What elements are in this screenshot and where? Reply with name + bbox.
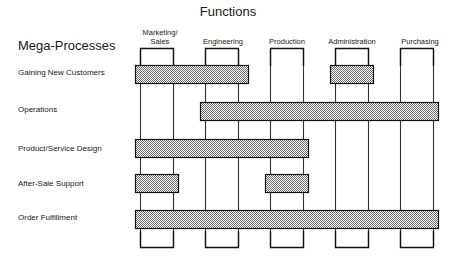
column-footer-box-engineering bbox=[206, 231, 239, 248]
matrix-graphics bbox=[0, 0, 456, 256]
process-bar-segment bbox=[136, 140, 309, 158]
column-footer-boxes bbox=[141, 231, 434, 248]
column-footer-box-purchasing bbox=[401, 231, 434, 248]
process-bar-row-gaining-new-customers bbox=[136, 66, 374, 84]
process-bar-segment bbox=[201, 103, 439, 121]
process-bar-segment bbox=[136, 175, 179, 193]
column-header-box-administration bbox=[336, 49, 369, 67]
column-header-boxes bbox=[141, 49, 434, 67]
column-header-box-production bbox=[271, 49, 304, 67]
column-footer-box-marketing-sales bbox=[141, 231, 174, 248]
column-header-box-engineering bbox=[206, 49, 239, 67]
column-header-box-purchasing bbox=[401, 49, 434, 67]
column-footer-box-administration bbox=[336, 231, 369, 248]
process-bar-segment bbox=[136, 66, 249, 84]
process-bar-row-order-fulfillment bbox=[136, 211, 439, 229]
process-bar-segment bbox=[136, 211, 439, 229]
column-header-box-marketing-sales bbox=[141, 49, 174, 67]
column-footer-box-production bbox=[271, 231, 304, 248]
process-bar-segment bbox=[266, 175, 309, 193]
process-bar-segment bbox=[331, 66, 374, 84]
process-bar-row-product-service-design bbox=[136, 140, 309, 158]
process-bar-row-after-sale-support bbox=[136, 175, 309, 193]
process-bar-row-operations bbox=[201, 103, 439, 121]
